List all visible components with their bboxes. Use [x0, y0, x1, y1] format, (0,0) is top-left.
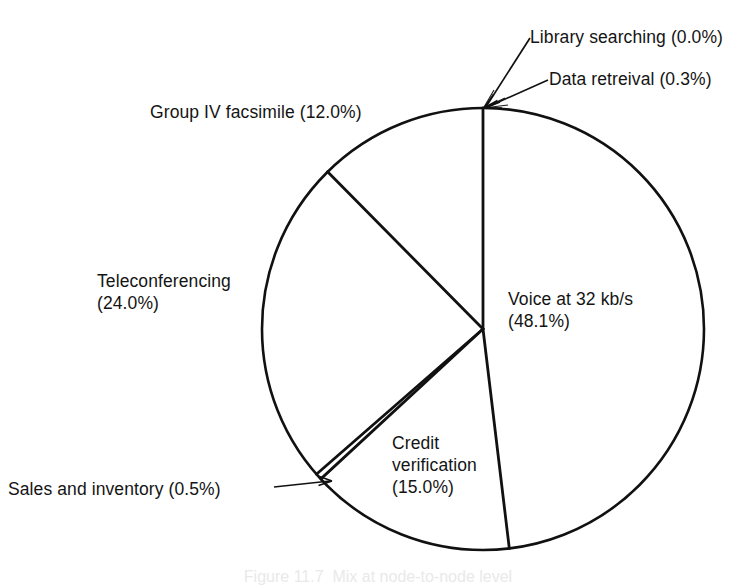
- slice-label-sales-and-inventory: Sales and inventory (0.5%): [8, 478, 221, 500]
- slice-label-group-iv-facsimile: Group IV facsimile (12.0%): [150, 101, 362, 123]
- figure-caption: Figure 11.7 Mix at node-to-node level: [0, 568, 756, 585]
- slice-label-voice-32kbs: Voice at 32 kb/s (48.1%): [508, 288, 633, 332]
- slice-label-data-retrieval: Data retreival (0.3%): [549, 68, 712, 90]
- slice-label-teleconferencing: Teleconferencing (24.0%): [97, 270, 231, 314]
- slice-label-library-searching: Library searching (0.0%): [530, 26, 723, 48]
- pie-chart-figure: Library searching (0.0%) Data retreival …: [0, 0, 756, 585]
- slice-label-credit-verification: Credit verification (15.0%): [392, 432, 477, 499]
